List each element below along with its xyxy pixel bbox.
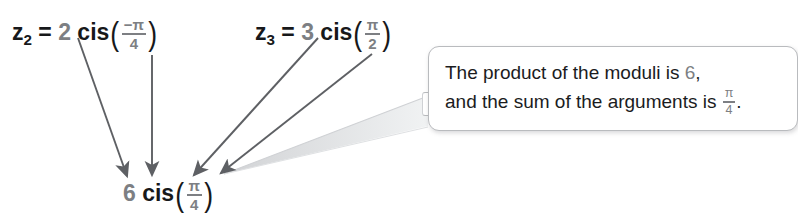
callout-line-2: and the sum of the arguments is π 4 .: [445, 87, 795, 117]
z3-open-paren: (: [354, 18, 363, 49]
z3-argument-fraction: π 2: [364, 17, 381, 51]
z3-variable: z: [255, 19, 267, 45]
callout-line1-suffix: ,: [695, 62, 700, 83]
z2-modulus: 2: [58, 19, 71, 45]
z2-close-paren: ): [148, 18, 157, 49]
z2-variable: z: [12, 19, 24, 45]
callout-line2-prefix: and the sum of the arguments is: [445, 91, 722, 112]
callout-tail-wedge: [224, 96, 428, 174]
z2-equals: =: [38, 19, 51, 45]
z3-subscript: 3: [267, 31, 275, 48]
z3-modulus: 3: [301, 19, 314, 45]
callout-argument-denominator: 4: [723, 104, 736, 117]
z2-argument-fraction: −π 4: [121, 17, 147, 51]
expression-z3: z3 = 3 cis( π 2 ): [255, 17, 392, 51]
product-close-paren: ): [204, 179, 213, 210]
z2-argument-denominator: 4: [122, 36, 146, 51]
z3-argument-denominator: 2: [365, 36, 380, 51]
expression-product: 6 cis( π 4 ): [123, 178, 214, 212]
arrow-argument-pi2: [221, 54, 372, 173]
product-argument-numerator: π: [187, 178, 202, 193]
product-modulus: 6: [123, 180, 136, 206]
z3-equals: =: [281, 19, 294, 45]
product-open-paren: (: [175, 179, 184, 210]
callout-moduli-product: 6: [685, 62, 696, 83]
callout-bubble: The product of the moduli is 6, and the …: [428, 46, 798, 131]
z2-argument-numerator: −π: [122, 17, 146, 32]
z2-subscript: 2: [24, 31, 32, 48]
z2-cis: cis: [77, 19, 109, 45]
arrow-modulus-3: [194, 38, 318, 175]
callout-argument-numerator: π: [723, 87, 736, 100]
arrow-modulus-2: [78, 38, 127, 176]
z2-open-paren: (: [111, 18, 120, 49]
callout-argument-sum-fraction: π 4: [722, 87, 737, 116]
callout-tail-edge-bottom: [224, 127, 428, 174]
product-argument-fraction: π 4: [186, 178, 203, 212]
callout-line1-prefix: The product of the moduli is: [445, 62, 685, 83]
product-cis: cis: [142, 180, 174, 206]
z3-close-paren: ): [382, 18, 391, 49]
callout-line2-suffix: .: [736, 91, 741, 112]
expression-z2: z2 = 2 cis( −π 4 ): [12, 17, 158, 51]
callout-line-1: The product of the moduli is 6,: [445, 58, 795, 87]
callout-text: The product of the moduli is 6, and the …: [445, 58, 795, 117]
z3-cis: cis: [320, 19, 352, 45]
product-argument-denominator: 4: [187, 197, 202, 212]
z3-argument-numerator: π: [365, 17, 380, 32]
callout-tail-edge-top: [224, 96, 428, 174]
